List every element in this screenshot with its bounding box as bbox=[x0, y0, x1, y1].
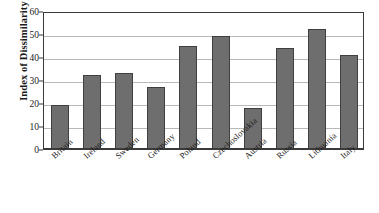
bar bbox=[179, 46, 197, 150]
y-axis-tick-label: 50 bbox=[18, 31, 39, 40]
bars-group bbox=[44, 13, 363, 149]
plot-area bbox=[43, 12, 364, 150]
y-axis-tick-label: 10 bbox=[18, 123, 39, 132]
bar-chart: Index of Dissimilarity 0102030405060 Bri… bbox=[0, 0, 379, 213]
bar bbox=[212, 36, 230, 149]
y-axis-tick-label: 30 bbox=[18, 77, 39, 86]
bar bbox=[276, 48, 294, 149]
bar bbox=[308, 29, 326, 149]
y-axis-tick-label: 40 bbox=[18, 54, 39, 63]
y-axis-tick-labels: 0102030405060 bbox=[18, 0, 39, 213]
x-axis-category-labels: BritainIrelandSwedenGermanyPolandCzechos… bbox=[43, 150, 364, 213]
y-axis-tick-label: 0 bbox=[18, 146, 39, 155]
bar bbox=[340, 55, 358, 149]
y-axis-tick-label: 60 bbox=[18, 8, 39, 17]
y-axis-tick-label: 20 bbox=[18, 100, 39, 109]
